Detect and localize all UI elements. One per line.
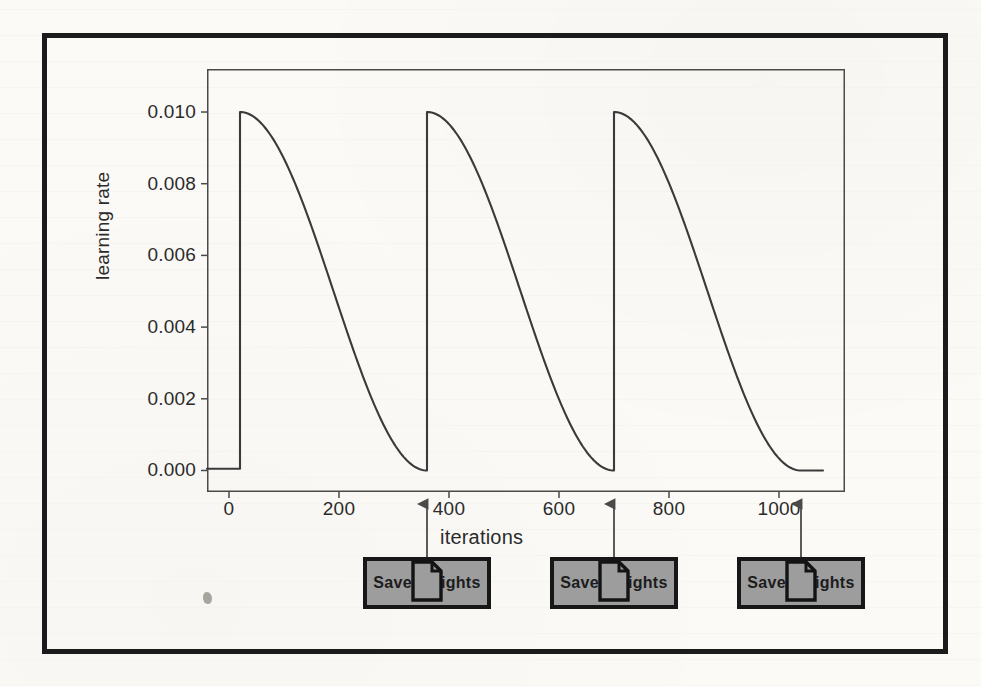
document-icon	[784, 560, 818, 606]
x-tick-label: 1000	[757, 498, 800, 520]
x-tick-label: 400	[433, 498, 465, 520]
x-axis-label: iterations	[440, 526, 523, 549]
scan-artifact-mark	[203, 592, 212, 604]
x-axis-ticks: 02004006008001000	[207, 498, 845, 528]
document-icon	[597, 560, 631, 606]
x-tick-label: 0	[224, 498, 235, 520]
save-weights-callout-3[interactable]: Save Weights	[737, 557, 865, 609]
axes-box	[208, 70, 845, 492]
document-icon	[410, 560, 444, 606]
y-axis-ticks: 0.0000.0020.0040.0060.0080.010	[110, 69, 196, 492]
y-tick-label: 0.002	[147, 388, 196, 410]
learning-rate-plot	[207, 69, 845, 492]
save-weights-callout-1[interactable]: Save Weights	[363, 557, 491, 609]
y-tick-label: 0.006	[147, 244, 196, 266]
learning-rate-curve	[207, 112, 823, 470]
save-weights-callout-2[interactable]: Save Weights	[550, 557, 678, 609]
axis-tick-marks	[201, 112, 779, 498]
y-tick-label: 0.000	[147, 459, 196, 481]
x-tick-label: 200	[323, 498, 355, 520]
x-tick-label: 800	[653, 498, 685, 520]
y-tick-label: 0.004	[147, 316, 196, 338]
plot-area	[207, 69, 845, 492]
y-tick-label: 0.010	[147, 101, 196, 123]
y-tick-label: 0.008	[147, 173, 196, 195]
y-axis-label: learning rate	[92, 172, 114, 280]
x-tick-label: 600	[543, 498, 575, 520]
